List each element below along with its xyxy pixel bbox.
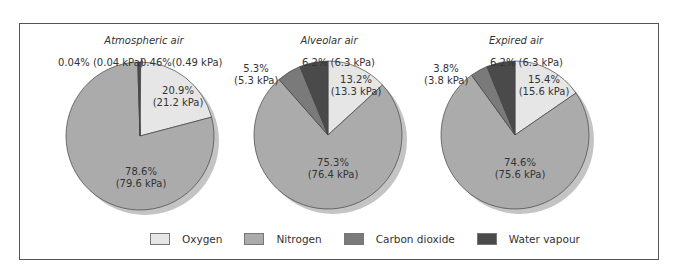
oxygen-pct: 20.9% — [150, 85, 206, 97]
label-co2-atmospheric: 0.04% (0.04 kPa) — [58, 57, 144, 69]
legend-label-water-vapour: Water vapour — [509, 233, 580, 245]
label-oxygen-alveolar: 13.2% (13.3 kPa) — [327, 74, 385, 98]
oxygen-kpa: (15.6 kPa) — [515, 86, 573, 98]
label-nitrogen-atmospheric: 78.6% (79.6 kPa) — [113, 166, 169, 190]
label-nitrogen-expired: 74.6% (75.6 kPa) — [492, 157, 548, 181]
label-co2-expired: 3.8% (3.8 kPa) — [424, 63, 468, 87]
nitrogen-kpa: (79.6 kPa) — [113, 178, 169, 190]
legend-label-nitrogen: Nitrogen — [276, 233, 321, 245]
legend-label-carbon-dioxide: Carbon dioxide — [376, 233, 455, 245]
label-oxygen-expired: 15.4% (15.6 kPa) — [515, 74, 573, 98]
pie-title-atmospheric: Atmospheric air — [64, 35, 224, 46]
oxygen-pct: 15.4% — [515, 74, 573, 86]
legend-label-oxygen: Oxygen — [182, 233, 222, 245]
carbon-dioxide-swatch — [344, 233, 364, 245]
legend-item-water-vapour: Water vapour — [477, 233, 580, 245]
legend-item-oxygen: Oxygen — [150, 233, 222, 245]
oxygen-swatch — [150, 233, 170, 245]
legend-item-carbon-dioxide: Carbon dioxide — [344, 233, 455, 245]
nitrogen-kpa: (75.6 kPa) — [492, 169, 548, 181]
label-nitrogen-alveolar: 75.3% (76.4 kPa) — [305, 157, 361, 181]
label-water-expired: 6.2% (6.3 kPa) — [490, 57, 563, 69]
pie-title-expired: Expired air — [436, 35, 596, 46]
nitrogen-pct: 75.3% — [305, 157, 361, 169]
co2-pct: 3.8% — [424, 63, 468, 75]
co2-kpa: (3.8 kPa) — [424, 75, 468, 87]
legend-item-nitrogen: Nitrogen — [244, 233, 321, 245]
oxygen-kpa: (13.3 kPa) — [327, 86, 385, 98]
nitrogen-kpa: (76.4 kPa) — [305, 169, 361, 181]
nitrogen-pct: 74.6% — [492, 157, 548, 169]
label-co2-alveolar: 5.3% (5.3 kPa) — [234, 63, 278, 87]
nitrogen-pct: 78.6% — [113, 166, 169, 178]
oxygen-kpa: (21.2 kPa) — [150, 97, 206, 109]
water-vapour-swatch — [477, 233, 497, 245]
co2-kpa: (5.3 kPa) — [234, 75, 278, 87]
pie-title-alveolar: Alveolar air — [249, 35, 409, 46]
co2-pct: 5.3% — [234, 63, 278, 75]
oxygen-pct: 13.2% — [327, 74, 385, 86]
label-oxygen-atmospheric: 20.9% (21.2 kPa) — [150, 85, 206, 109]
label-water-atmospheric: 0.46%(0.49 kPa) — [140, 57, 223, 69]
nitrogen-swatch — [244, 233, 264, 245]
legend: Oxygen Nitrogen Carbon dioxide Water vap… — [150, 231, 602, 247]
label-water-alveolar: 6.2% (6.3 kPa) — [302, 57, 375, 69]
